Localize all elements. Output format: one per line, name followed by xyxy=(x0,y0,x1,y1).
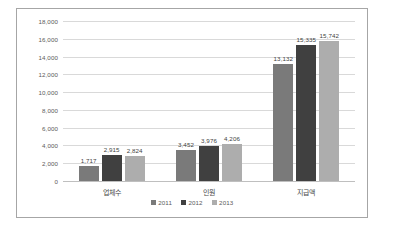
bar-value-label: 2,915 xyxy=(104,146,120,153)
bar-2012-업체수[interactable] xyxy=(102,155,122,181)
bar-2013-지급액[interactable] xyxy=(319,41,339,181)
bar-2012-지급액[interactable] xyxy=(296,45,316,181)
bar-wrapper: 4,206 xyxy=(222,21,242,181)
legend-swatch-icon xyxy=(212,200,217,205)
bar-value-label: 3,452 xyxy=(178,141,194,148)
bar-2013-인원[interactable] xyxy=(222,144,242,181)
bar-wrapper: 2,824 xyxy=(125,21,145,181)
y-axis-tick-label: 6,000 xyxy=(42,124,58,131)
bar-value-label: 15,742 xyxy=(320,32,340,39)
bar-wrapper: 1,717 xyxy=(79,21,99,181)
y-axis-tick-label: 10,000 xyxy=(38,89,58,96)
chart-frame: 02,0004,0006,0008,00010,00012,00014,0001… xyxy=(16,8,368,218)
y-axis-tick-label: 4,000 xyxy=(42,142,58,149)
category-label-업체수: 업체수 xyxy=(103,187,121,197)
bar-value-label: 1,717 xyxy=(81,157,97,164)
y-axis-tick-label: 14,000 xyxy=(38,53,58,60)
bar-value-label: 13,132 xyxy=(274,55,294,62)
legend-label: 2013 xyxy=(219,199,233,206)
bar-wrapper: 3,452 xyxy=(176,21,196,181)
bar-wrapper: 3,976 xyxy=(199,21,219,181)
bar-value-label: 2,824 xyxy=(127,147,143,154)
bar-wrapper: 2,915 xyxy=(102,21,122,181)
bar-wrapper: 15,335 xyxy=(296,21,316,181)
axis-baseline xyxy=(63,181,355,182)
legend-swatch-icon xyxy=(151,200,156,205)
bar-2012-인원[interactable] xyxy=(199,146,219,181)
bar-value-label: 4,206 xyxy=(224,135,240,142)
bar-2011-지급액[interactable] xyxy=(273,64,293,181)
bar-value-label: 15,335 xyxy=(297,36,317,43)
legend-label: 2011 xyxy=(158,199,172,206)
bar-group: 1,7172,9152,824업체수 xyxy=(63,21,160,181)
bar-2013-업체수[interactable] xyxy=(125,156,145,181)
y-axis-tick-label: 0 xyxy=(54,178,58,185)
y-axis-tick-label: 2,000 xyxy=(42,160,58,167)
bar-wrapper: 15,742 xyxy=(319,21,339,181)
legend-label: 2012 xyxy=(188,199,202,206)
category-label-인원: 인원 xyxy=(203,187,215,197)
y-axis-tick-label: 18,000 xyxy=(38,18,58,25)
legend-item-2012[interactable]: 2012 xyxy=(181,199,203,206)
bar-series-layer: 1,7172,9152,824업체수3,4523,9764,206인원13,13… xyxy=(63,21,355,181)
bar-group: 13,13215,33515,742지급액 xyxy=(258,21,355,181)
chart-legend: 201120122013 xyxy=(17,199,367,206)
bar-group: 3,4523,9764,206인원 xyxy=(160,21,257,181)
legend-item-2013[interactable]: 2013 xyxy=(212,199,234,206)
y-axis-tick-label: 8,000 xyxy=(42,106,58,113)
legend-item-2011[interactable]: 2011 xyxy=(151,199,172,206)
bar-2011-업체수[interactable] xyxy=(79,166,99,181)
y-axis-tick-label: 12,000 xyxy=(38,71,58,78)
category-label-지급액: 지급액 xyxy=(297,187,315,197)
y-axis-tick-label: 16,000 xyxy=(38,35,58,42)
legend-swatch-icon xyxy=(181,200,186,205)
bar-value-label: 3,976 xyxy=(201,137,217,144)
bar-2011-인원[interactable] xyxy=(176,150,196,181)
plot-area: 02,0004,0006,0008,00010,00012,00014,0001… xyxy=(63,21,355,181)
bar-wrapper: 13,132 xyxy=(273,21,293,181)
